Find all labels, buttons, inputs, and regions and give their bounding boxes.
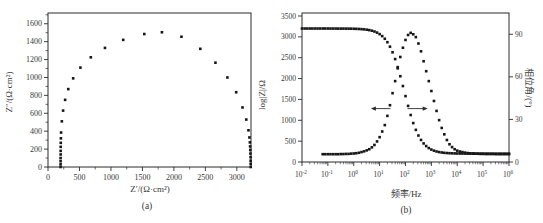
bode-right-y-axis-label: 相位角/(°): [523, 68, 536, 107]
svg-text:2000: 2000: [281, 74, 296, 83]
svg-text:0: 0: [46, 173, 50, 182]
svg-text:90: 90: [515, 30, 523, 39]
nyquist-x-axis-label: Z′/(Ω·cm²): [130, 184, 169, 194]
svg-text:400: 400: [30, 127, 42, 136]
svg-text:800: 800: [30, 91, 42, 100]
svg-text:0: 0: [38, 163, 42, 172]
svg-text:3500: 3500: [281, 12, 296, 21]
svg-text:102: 102: [399, 169, 410, 179]
svg-text:106: 106: [503, 169, 514, 179]
svg-text:105: 105: [477, 169, 488, 179]
svg-text:10-2: 10-2: [295, 169, 307, 179]
svg-text:1000: 1000: [103, 173, 119, 182]
svg-text:3000: 3000: [229, 173, 245, 182]
svg-text:1600: 1600: [26, 19, 42, 28]
svg-text:104: 104: [451, 169, 462, 179]
eis-figure-panel: 0500100015002000250030000200400600800100…: [0, 0, 543, 223]
svg-text:2500: 2500: [281, 53, 296, 62]
svg-text:101: 101: [374, 169, 385, 179]
svg-text:500: 500: [285, 137, 297, 146]
svg-text:1500: 1500: [134, 173, 150, 182]
svg-text:1200: 1200: [26, 55, 42, 64]
svg-text:0: 0: [292, 158, 296, 167]
svg-text:100: 100: [348, 169, 359, 179]
svg-text:103: 103: [425, 169, 436, 179]
svg-text:1400: 1400: [26, 37, 42, 46]
svg-text:2500: 2500: [197, 173, 213, 182]
nyquist-y-axis-label: Z″/(Ω·cm²): [4, 71, 14, 112]
svg-text:1000: 1000: [26, 73, 42, 82]
bode-x-axis-label: 频率/Hz: [391, 187, 422, 200]
svg-text:10-1: 10-1: [321, 169, 333, 179]
svg-text:3000: 3000: [281, 32, 296, 41]
nyquist-sublabel: (a): [142, 201, 153, 211]
svg-text:600: 600: [30, 109, 42, 118]
svg-text:30: 30: [515, 115, 523, 124]
svg-text:2000: 2000: [166, 173, 182, 182]
svg-text:0: 0: [515, 158, 519, 167]
svg-text:1500: 1500: [281, 95, 296, 104]
svg-text:500: 500: [73, 173, 85, 182]
svg-text:1000: 1000: [281, 116, 296, 125]
bode-sublabel: (b): [400, 205, 411, 215]
bode-left-y-axis-label: log|Z|/Ω: [257, 80, 267, 110]
svg-text:200: 200: [30, 145, 42, 154]
